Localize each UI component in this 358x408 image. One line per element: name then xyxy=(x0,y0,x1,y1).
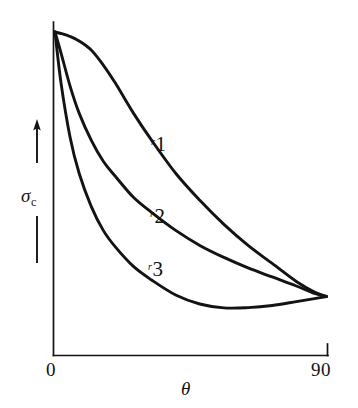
curve-r3 xyxy=(55,32,327,308)
x-axis-tick-label-90: 90 xyxy=(311,360,331,379)
curve-label-r3-index: 3 xyxy=(152,257,163,281)
curve-label-r3: r3 xyxy=(148,259,163,280)
curve-label-r2-index: 2 xyxy=(154,204,165,228)
curve-label-r2: r2 xyxy=(150,206,165,227)
y-axis-title: σc xyxy=(21,186,36,208)
curve-label-r1-index: 1 xyxy=(155,132,166,156)
curve-r2 xyxy=(55,32,327,297)
curve-label-r1: r1 xyxy=(151,134,166,155)
y-axis-subscript: c xyxy=(31,195,36,209)
curve-r1 xyxy=(55,32,327,297)
y-axis-symbol: σ xyxy=(21,185,30,206)
figure-root: 0 90 θ σc r1 r2 r3 xyxy=(0,0,358,408)
plot-canvas xyxy=(0,0,358,408)
x-axis-tick-label-0: 0 xyxy=(46,360,56,379)
x-axis-title: θ xyxy=(181,379,190,398)
